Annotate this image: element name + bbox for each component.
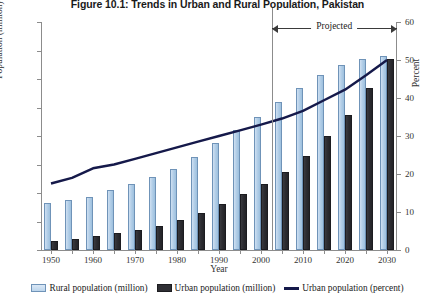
x-tick (240, 250, 241, 254)
x-tick-label: 2030 (367, 255, 407, 265)
x-tick (261, 250, 262, 254)
chart-figure: Figure 10.1: Trends in Urban and Rural P… (0, 0, 435, 304)
x-tick (387, 250, 388, 254)
legend-label-rural: Rural population (million) (49, 283, 147, 293)
x-tick-label: 1980 (157, 255, 197, 265)
x-tick (366, 250, 367, 254)
arrow-right-icon (391, 25, 397, 33)
urban-percent-line (41, 22, 397, 250)
page-title: Figure 10.1: Trends in Urban and Rural P… (0, 0, 435, 10)
x-tick (135, 250, 136, 254)
projected-annotation: Projected (272, 23, 398, 35)
x-tick-label: 1990 (199, 255, 239, 265)
legend-swatch-urban (157, 284, 172, 292)
legend-item-rural: Rural population (million) (31, 283, 147, 293)
x-tick (114, 250, 115, 254)
chart-legend: Rural population (million) Urban populat… (0, 283, 435, 293)
x-tick (219, 250, 220, 254)
y-tick-label-right: 0 (405, 246, 410, 255)
x-tick (72, 250, 73, 254)
y-tick-right (397, 22, 401, 23)
x-tick (177, 250, 178, 254)
plot-area: 020406080100120140160 0102030405060 1950… (41, 22, 397, 250)
x-tick (303, 250, 304, 254)
y-tick-right (397, 250, 401, 251)
y-tick-right (397, 174, 401, 175)
y-tick-label-right: 40 (405, 94, 414, 103)
legend-swatch-rural (31, 284, 46, 292)
legend-item-urban-percent: Urban population (percent) (284, 283, 403, 293)
y-axis-label-left: Population (million) (0, 0, 4, 100)
y-tick-label-right: 10 (405, 208, 414, 217)
x-tick-label: 1950 (31, 255, 71, 265)
y-tick-right (397, 136, 401, 137)
legend-label-urban: Urban population (million) (175, 283, 276, 293)
y-tick-right (397, 60, 401, 61)
x-tick-label: 2000 (241, 255, 281, 265)
y-tick-label-right: 20 (405, 170, 414, 179)
y-tick-left (37, 250, 41, 251)
projected-divider-line (272, 8, 273, 250)
x-tick (156, 250, 157, 254)
y-tick-right (397, 98, 401, 99)
y-tick-right (397, 212, 401, 213)
x-tick-label: 2020 (325, 255, 365, 265)
y-tick-label-right: 50 (405, 56, 414, 65)
x-axis-label: Year (41, 264, 397, 274)
y-tick-label-right: 30 (405, 132, 414, 141)
x-tick (345, 250, 346, 254)
x-tick (282, 250, 283, 254)
legend-item-urban: Urban population (million) (157, 283, 276, 293)
x-tick (198, 250, 199, 254)
x-tick (93, 250, 94, 254)
x-tick (324, 250, 325, 254)
y-tick-label-right: 60 (405, 18, 414, 27)
legend-label-urban-percent: Urban population (percent) (302, 283, 403, 293)
x-tick-label: 2010 (283, 255, 323, 265)
x-tick (51, 250, 52, 254)
x-tick-label: 1970 (115, 255, 155, 265)
x-tick-label: 1960 (73, 255, 113, 265)
legend-swatch-line (284, 287, 299, 290)
arrow-left-icon (272, 25, 278, 33)
projected-label: Projected (311, 21, 357, 31)
